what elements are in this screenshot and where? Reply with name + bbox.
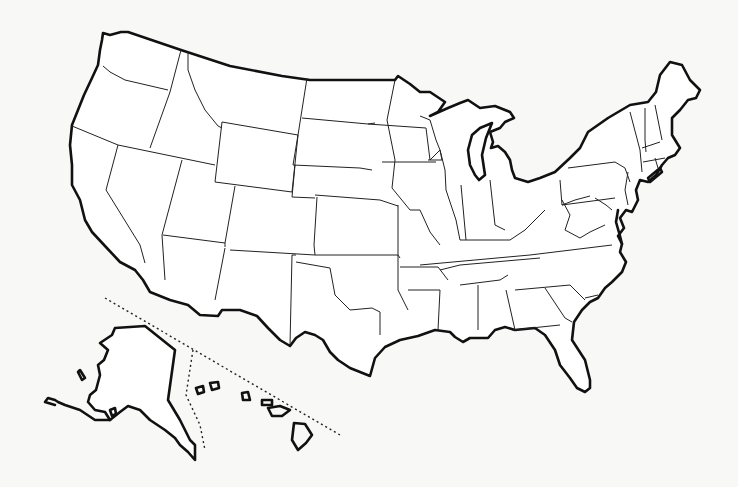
alaska-outline [88, 326, 195, 460]
us-outline-map [0, 0, 738, 487]
hawaii-islands [196, 382, 312, 450]
alaska-island-1 [78, 370, 85, 380]
map-page: Outline map of the United States [0, 0, 738, 487]
contiguous-us-outline [70, 32, 700, 392]
